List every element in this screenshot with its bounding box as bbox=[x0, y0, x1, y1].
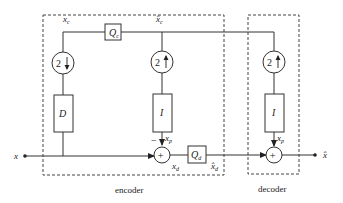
minus-sign: − bbox=[151, 135, 157, 146]
output-node bbox=[313, 153, 317, 157]
codec-block-diagram: Qc xc x̂c 2 D 2 I xp − x + xd bbox=[0, 0, 343, 203]
qd-block: Qd bbox=[188, 146, 206, 163]
xc-label: xc bbox=[62, 14, 70, 25]
upsample-2-decoder-block: 2 bbox=[263, 51, 285, 73]
xp-dec-label: xp bbox=[276, 133, 284, 144]
svg-text:2: 2 bbox=[155, 57, 160, 68]
encoder-label: encoder bbox=[115, 185, 143, 195]
xc-hat-label: x̂c bbox=[155, 14, 163, 25]
svg-text:+: + bbox=[270, 149, 276, 161]
output-label: x̂ bbox=[322, 150, 327, 160]
svg-text:2: 2 bbox=[267, 57, 272, 68]
upsample-2-encoder-block: 2 bbox=[151, 51, 173, 73]
svg-text:D: D bbox=[58, 108, 67, 119]
decoder-summer: + bbox=[266, 147, 282, 163]
downsample-2-block: 2 bbox=[52, 52, 74, 74]
xp-enc-label: xp bbox=[164, 133, 172, 144]
svg-text:2: 2 bbox=[56, 58, 61, 69]
encoder-summer: + bbox=[154, 147, 170, 163]
xc-wire bbox=[63, 32, 105, 52]
svg-text:+: + bbox=[158, 149, 164, 161]
d-block: D bbox=[54, 95, 73, 132]
input-label: x bbox=[13, 151, 18, 161]
xd-label: xd bbox=[171, 161, 180, 172]
interpolator-encoder-block: I bbox=[153, 94, 172, 132]
svg-text:I: I bbox=[159, 107, 164, 118]
qc-block: Qc bbox=[105, 24, 121, 40]
interpolator-decoder-block: I bbox=[265, 94, 284, 132]
decoder-label: decoder bbox=[258, 184, 286, 194]
xd-hat-label: x̂d bbox=[210, 161, 219, 172]
svg-text:I: I bbox=[271, 107, 276, 118]
